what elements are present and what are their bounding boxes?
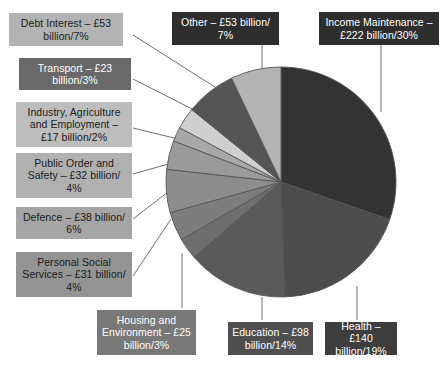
callout-public-order-safety[interactable]: Public Order andSafety – £32 billion/4% xyxy=(16,153,132,198)
callout-other-text: Other – £53 billion/7% xyxy=(175,16,276,41)
callout-defence[interactable]: Defence – £38 billion/6% xyxy=(16,207,132,239)
callout-public-order-text: Public Order andSafety – £32 billion/4% xyxy=(19,157,129,195)
callout-other[interactable]: Other – £53 billion/7% xyxy=(172,12,279,45)
callout-transport-text: Transport – £23billion/3% xyxy=(22,62,128,87)
pie-slices xyxy=(166,67,396,297)
callout-personal-social-services[interactable]: Personal SocialServices – £31 billion/4% xyxy=(16,252,132,297)
callout-health-text: Health – £140billion/19% xyxy=(328,320,394,358)
callout-income-maintenance-text: Income Maintenance –£222 billion/30% xyxy=(322,16,436,41)
leader-line-industry xyxy=(133,128,178,139)
callout-transport[interactable]: Transport – £23billion/3% xyxy=(19,58,131,90)
callout-housing-text: Housing andEnvironment – £25billion/3% xyxy=(100,314,193,352)
callout-education-text: Education – £98billion/14% xyxy=(231,326,310,351)
callout-health[interactable]: Health – £140billion/19% xyxy=(325,322,397,355)
callout-defence-text: Defence – £38 billion/6% xyxy=(19,211,129,236)
callout-debt-interest[interactable]: Debt Interest – £53billion/7% xyxy=(9,13,123,46)
callout-income-maintenance[interactable]: Income Maintenance –£222 billion/30% xyxy=(319,12,439,45)
callout-education[interactable]: Education – £98billion/14% xyxy=(228,322,313,355)
callout-personal-social-text: Personal SocialServices – £31 billion/4% xyxy=(19,256,129,294)
leader-line-personal-social xyxy=(133,219,171,276)
leader-line-defence xyxy=(133,192,168,219)
leader-line-transport xyxy=(133,79,200,113)
pie-chart-figure: Debt Interest – £53billion/7% Transport … xyxy=(0,0,445,369)
callout-housing-environment[interactable]: Housing andEnvironment – £25billion/3% xyxy=(97,310,196,355)
callout-industry-agriculture-employment[interactable]: Industry, Agricultureand Employment –£17… xyxy=(16,102,132,147)
callout-industry-text: Industry, Agricultureand Employment –£17… xyxy=(19,106,129,144)
callout-debt-interest-text: Debt Interest – £53billion/7% xyxy=(12,17,120,42)
